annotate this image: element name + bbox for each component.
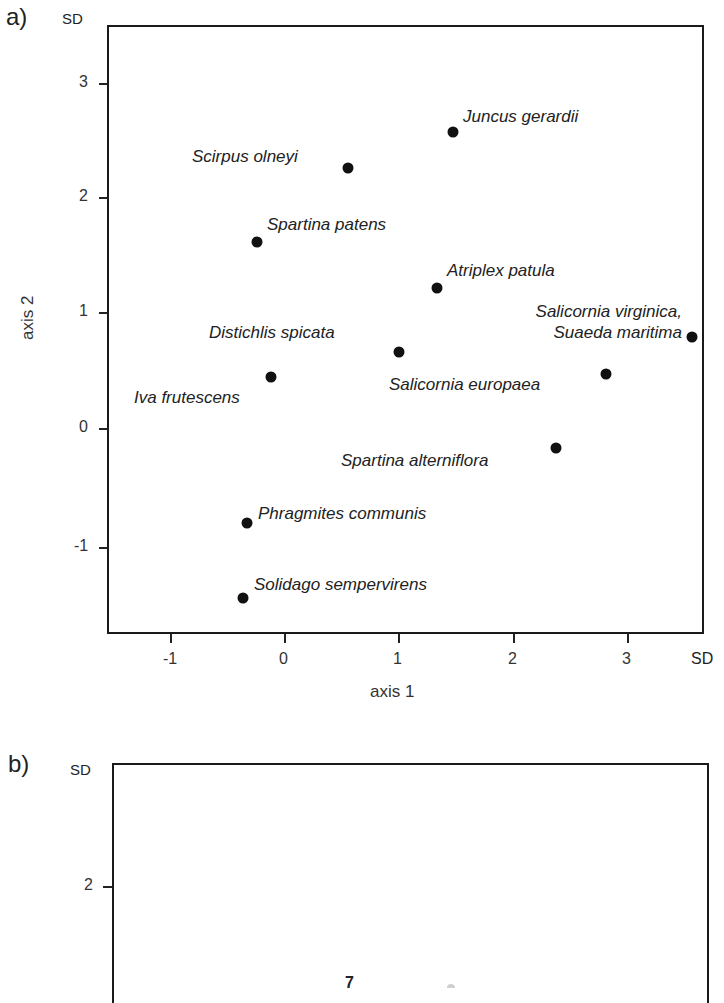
data-point-partial — [447, 984, 455, 988]
point-label: 7 — [345, 974, 354, 992]
data-point — [687, 332, 698, 343]
x-tick-label: 0 — [279, 650, 288, 668]
panel-b-label: b) — [8, 750, 29, 778]
panel-a-label: a) — [6, 3, 27, 31]
data-point — [394, 347, 405, 358]
point-label: Atriplex patula — [447, 260, 555, 281]
data-point — [343, 163, 354, 174]
plot-frame — [112, 763, 709, 1003]
point-label: Salicornia europaea — [389, 374, 540, 395]
point-label: Solidago sempervirens — [254, 574, 427, 595]
point-label: Juncus gerardii — [463, 106, 578, 127]
y-tick-label: 2 — [84, 876, 93, 894]
y-unit-label: SD — [70, 761, 91, 778]
y-tick — [99, 428, 108, 430]
data-point — [242, 518, 253, 529]
point-label: Iva frutescens — [134, 387, 240, 408]
point-label: Salicornia virginica, Suaeda maritima — [479, 301, 682, 343]
x-tick — [398, 634, 400, 643]
data-point — [448, 127, 459, 138]
x-tick-label: 2 — [508, 650, 517, 668]
data-point — [266, 372, 277, 383]
y-tick — [103, 886, 112, 888]
y-tick — [99, 547, 108, 549]
x-tick-label: 1 — [393, 650, 402, 668]
data-point — [238, 593, 249, 604]
y-tick — [99, 312, 108, 314]
y-tick-label: -1 — [74, 537, 88, 555]
y-axis-title: axis 2 — [18, 296, 38, 340]
data-point — [252, 237, 263, 248]
x-tick-label: 3 — [622, 650, 631, 668]
data-point — [551, 443, 562, 454]
y-tick — [99, 197, 108, 199]
x-tick-label: -1 — [163, 650, 177, 668]
y-tick — [99, 83, 108, 85]
y-tick-label: 2 — [79, 187, 88, 205]
x-tick — [170, 634, 172, 643]
point-label: Spartina alterniflora — [341, 450, 488, 471]
x-unit-label: SD — [691, 650, 713, 668]
point-label: Spartina patens — [267, 214, 386, 235]
x-tick — [513, 634, 515, 643]
y-tick-label: 1 — [79, 302, 88, 320]
y-tick-label: 0 — [79, 418, 88, 436]
data-point — [432, 283, 443, 294]
point-label: Scirpus olneyi — [192, 146, 298, 167]
x-tick — [284, 634, 286, 643]
y-tick-label: 3 — [79, 73, 88, 91]
x-axis-title: axis 1 — [370, 682, 414, 702]
data-point — [601, 369, 612, 380]
y-unit-label: SD — [62, 10, 83, 27]
x-tick — [627, 634, 629, 643]
point-label: Phragmites communis — [258, 503, 426, 524]
point-label: Distichlis spicata — [209, 322, 335, 343]
